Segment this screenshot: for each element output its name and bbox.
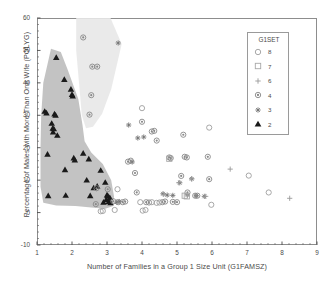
x-tick-label: 5 (167, 249, 187, 256)
legend-item-label: 7 (268, 63, 271, 70)
open-circle-icon (248, 45, 268, 58)
x-tick-label: 2 (62, 249, 82, 256)
marker-circle-dot (154, 138, 159, 143)
shaded-regions-group (41, 18, 122, 209)
y-axis-title: Percentage of Males with More Than One W… (22, 25, 31, 225)
marker-circle-dot (139, 119, 144, 124)
marker-circle-dot (179, 173, 184, 178)
legend-item-3[interactable]: 3 (248, 103, 290, 116)
marker-open-square (255, 63, 260, 68)
plus-icon (248, 74, 268, 87)
marker-open-circle (138, 200, 143, 205)
legend-item-label: 8 (268, 48, 271, 55)
marker-asterisk (255, 107, 260, 112)
legend-item-4[interactable]: 4 (248, 89, 290, 102)
marker-open-circle (207, 125, 212, 130)
legend-item-label: 6 (268, 77, 271, 84)
marker-asterisk (126, 122, 131, 127)
scatter-plot-figure: -100102030405060 123456789 Percentage of… (0, 0, 329, 283)
marker-open-circle (246, 173, 251, 178)
x-tick-label: 8 (272, 249, 292, 256)
marker-asterisk (170, 193, 175, 198)
marker-plus (228, 167, 233, 172)
marker-plus (176, 180, 181, 185)
series-3 (114, 40, 207, 204)
legend[interactable]: G1SET 876432 (247, 32, 289, 135)
legend-item-6[interactable]: 6 (248, 74, 290, 87)
x-tick-label: 4 (132, 249, 152, 256)
marker-asterisk (135, 135, 140, 140)
marker-asterisk (141, 134, 146, 139)
legend-item-7[interactable]: 7 (248, 60, 290, 73)
marker-plus (287, 196, 292, 201)
marker-open-circle (209, 202, 214, 207)
marker-plus (255, 78, 260, 83)
x-tick-label: 7 (237, 249, 257, 256)
marker-circle-dot (134, 190, 139, 195)
legend-item-8[interactable]: 8 (248, 45, 290, 58)
legend-item-label: 4 (268, 92, 271, 99)
marker-asterisk (165, 192, 170, 197)
marker-circle-dot (132, 170, 137, 175)
marker-open-circle (255, 49, 260, 54)
circle-dot-icon (248, 89, 268, 102)
filled-triangle-icon (248, 118, 268, 131)
marker-asterisk (116, 40, 121, 45)
x-tick-label: 1 (27, 249, 47, 256)
legend-item-label: 3 (268, 106, 271, 113)
marker-circle-dot (207, 177, 212, 182)
y-tick-label: -10 (8, 241, 30, 248)
series-7 (167, 156, 190, 199)
marker-circle-dot (205, 154, 210, 159)
marker-open-circle (115, 187, 120, 192)
marker-open-circle (112, 207, 117, 212)
legend-item-2[interactable]: 2 (248, 118, 290, 131)
marker-circle-dot (255, 92, 260, 97)
x-axis-title: Number of Families in a Group 1 Size Uni… (37, 262, 317, 271)
x-tick-label: 6 (202, 249, 222, 256)
marker-circle-dot (181, 132, 186, 137)
asterisk-icon (248, 103, 268, 116)
open-square-icon (248, 60, 268, 73)
marker-open-circle (266, 190, 271, 195)
y-tick-label: 60 (8, 14, 30, 21)
marker-open-circle (139, 106, 144, 111)
x-tick-label: 3 (97, 249, 117, 256)
marker-asterisk (160, 191, 165, 196)
x-tick-label: 9 (307, 249, 327, 256)
legend-item-label: 2 (268, 121, 271, 128)
legend-title: G1SET (248, 36, 290, 43)
marker-filled-triangle (255, 121, 262, 127)
